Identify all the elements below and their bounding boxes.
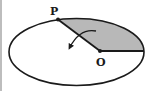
label-point-p: P (50, 6, 58, 17)
point-p-dot (56, 18, 60, 22)
orbit-diagram: P O (0, 0, 154, 91)
diagram-svg (0, 0, 154, 91)
point-o-dot (98, 49, 102, 53)
label-point-o: O (96, 57, 106, 68)
